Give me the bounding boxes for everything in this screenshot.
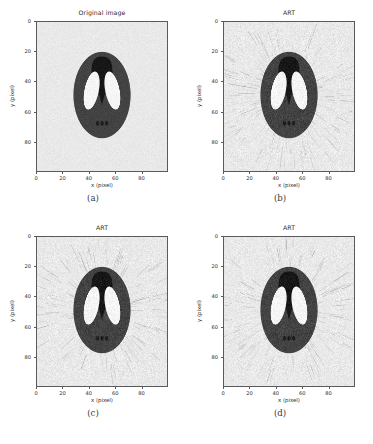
y-tick-label: 20 [25,263,31,269]
y-tick-label: 0 [28,18,31,24]
y-tick-label: 40 [212,293,218,299]
y-tick-mark [34,266,36,267]
y-tick-mark [221,21,223,22]
y-tick-mark [34,51,36,52]
y-tick-mark [34,112,36,113]
figure-panel-grid: Original image 020406080020406080 x (pix… [0,0,373,444]
y-axis-label: y (pixel) [9,300,15,322]
y-tick-label: 80 [212,139,218,145]
y-tick-label: 80 [25,139,31,145]
x-axis-label: x (pixel) [223,182,355,188]
x-tick-label: 80 [325,175,331,181]
phantom-image [37,22,167,171]
phantom-image [37,237,167,386]
x-tick-label: 40 [273,390,279,396]
x-tick-label: 0 [34,175,37,181]
y-axis-label: y (pixel) [196,85,202,107]
x-tick-label: 40 [86,390,92,396]
y-tick-mark [221,327,223,328]
y-tick-label: 60 [25,109,31,115]
y-tick-label: 20 [212,263,218,269]
x-tick-label: 80 [138,390,144,396]
subfigure-c: ART 020406080020406080 x (pixel) y (pixe… [0,215,186,437]
panel-title: Original image [36,9,168,16]
x-axis-label: x (pixel) [223,397,355,403]
x-tick-label: 0 [221,390,224,396]
plot-area [36,236,168,387]
x-tick-label: 20 [59,175,65,181]
y-tick-mark [221,296,223,297]
x-tick-label: 20 [246,390,252,396]
x-tick-label: 60 [112,390,118,396]
y-tick-mark [34,142,36,143]
y-tick-label: 40 [25,78,31,84]
y-tick-mark [34,327,36,328]
y-axis-label: y (pixel) [9,85,15,107]
panel-title: ART [223,224,355,231]
y-tick-mark [34,21,36,22]
x-tick-label: 20 [59,390,65,396]
y-tick-label: 60 [25,324,31,330]
x-tick-label: 0 [221,175,224,181]
y-tick-mark [34,296,36,297]
plot-area [36,21,168,172]
y-tick-label: 20 [212,48,218,54]
y-axis-label: y (pixel) [196,300,202,322]
y-tick-mark [34,357,36,358]
subfigure-caption: (d) [187,408,373,418]
y-tick-mark [34,81,36,82]
subfigure-b: ART 020406080020406080 x (pixel) y (pixe… [187,0,373,222]
y-tick-mark [221,142,223,143]
y-tick-mark [221,112,223,113]
subfigure-caption: (c) [0,408,186,418]
x-tick-label: 60 [299,175,305,181]
y-tick-mark [221,81,223,82]
y-tick-label: 80 [25,354,31,360]
y-tick-mark [221,236,223,237]
y-tick-label: 40 [212,78,218,84]
y-tick-mark [34,236,36,237]
subfigure-a: Original image 020406080020406080 x (pix… [0,0,186,222]
y-tick-label: 80 [212,354,218,360]
subfigure-caption: (b) [187,193,373,203]
x-tick-label: 60 [112,175,118,181]
y-tick-label: 60 [212,109,218,115]
x-tick-label: 20 [246,175,252,181]
y-tick-mark [221,357,223,358]
x-tick-label: 80 [325,390,331,396]
panel-title: ART [36,224,168,231]
x-tick-label: 0 [34,390,37,396]
x-tick-label: 40 [86,175,92,181]
y-tick-label: 20 [25,48,31,54]
y-tick-mark [221,51,223,52]
y-tick-label: 0 [215,233,218,239]
plot-area [223,236,355,387]
plot-area [223,21,355,172]
subfigure-caption: (a) [0,193,186,203]
panel-title: ART [223,9,355,16]
subfigure-d: ART 020406080020406080 x (pixel) y (pixe… [187,215,373,437]
x-axis-label: x (pixel) [36,397,168,403]
y-tick-mark [221,266,223,267]
y-tick-label: 0 [215,18,218,24]
y-tick-label: 40 [25,293,31,299]
x-tick-label: 80 [138,175,144,181]
x-axis-label: x (pixel) [36,182,168,188]
phantom-image [224,22,354,171]
phantom-image [224,237,354,386]
y-tick-label: 60 [212,324,218,330]
x-tick-label: 40 [273,175,279,181]
x-tick-label: 60 [299,390,305,396]
y-tick-label: 0 [28,233,31,239]
